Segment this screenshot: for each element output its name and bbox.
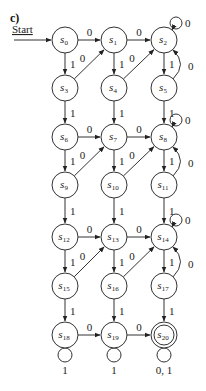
edge-s2-s5: 1 — [164, 53, 175, 74]
edge-label: 0 — [87, 26, 93, 38]
edge-label: 1 — [70, 107, 76, 119]
edge-s7-s8: 0 — [127, 123, 150, 137]
edge-s11-s14: 1 — [164, 198, 175, 223]
edge-label: 1 — [119, 256, 125, 268]
edge-s6-s7: 0 — [78, 123, 100, 137]
edge-s19-s19: 1 — [107, 348, 121, 376]
edge-s6-s9: 1 — [65, 150, 76, 171]
edge-label: 1 — [169, 58, 175, 70]
edge-s14-s17: 1 — [164, 250, 175, 272]
edge-label: 0 — [87, 321, 93, 333]
edge-label: 1 — [62, 364, 68, 376]
edge-label: 1 — [169, 305, 175, 317]
edge-label: 1 — [111, 364, 117, 376]
edge-s12-s15: 1 — [65, 250, 76, 272]
edge-label: 1 — [70, 58, 76, 70]
state-s3: s3 — [52, 75, 78, 101]
edge-label: 1 — [169, 155, 175, 167]
edge-label: 0 — [129, 149, 135, 161]
state-s0: s0 — [52, 27, 78, 53]
edge-s18-s19: 0 — [78, 321, 100, 335]
state-s19: s19 — [101, 322, 127, 348]
edge-s16-s14: 0 — [123, 247, 154, 277]
edge-s18-s18: 1 — [58, 348, 72, 376]
edge-s4-s7: 1 — [114, 101, 125, 123]
state-s7: s7 — [101, 124, 127, 150]
edge-label: 1 — [119, 107, 125, 119]
state-s14: s14 — [151, 224, 177, 250]
state-diagram: c) Start 0011100001110011100001110011100… — [0, 0, 206, 391]
state-s2: s2 — [151, 27, 177, 53]
edge-s5-s2: 0 — [173, 50, 194, 79]
state-s10: s10 — [101, 172, 127, 198]
edge-label: 0 — [185, 17, 191, 29]
edge-label: 0 — [136, 223, 142, 235]
edge-label: 1 — [119, 58, 125, 70]
edge-label: 0 — [136, 26, 142, 38]
edge-s0-s3: 1 — [65, 53, 76, 74]
edge-label: 0, 1 — [156, 364, 173, 376]
state-s8: s8 — [151, 124, 177, 150]
edge-label: 0 — [80, 52, 86, 64]
edge-s12-s13: 0 — [78, 223, 100, 237]
edge-label: 1 — [119, 305, 125, 317]
state-s6: s6 — [52, 124, 78, 150]
edge-label: 1 — [70, 155, 76, 167]
edge-label: 0 — [80, 250, 86, 262]
edge-s3-s6: 1 — [65, 101, 76, 123]
edge-s15-s18: 1 — [65, 299, 76, 321]
state-s16: s16 — [101, 273, 127, 299]
edges-layer: 0011100001110011100001110011100001110011… — [58, 17, 194, 376]
edge-label: 0 — [129, 250, 135, 262]
edge-label: 1 — [169, 107, 175, 119]
edge-label: 0 — [80, 149, 86, 161]
start-label: Start — [12, 23, 33, 35]
edge-s17-s14: 0 — [173, 247, 194, 277]
edge-s10-s8: 0 — [123, 147, 154, 176]
edge-label: 0 — [136, 123, 142, 135]
edge-label: 0 — [87, 123, 93, 135]
state-s4: s4 — [101, 75, 127, 101]
edge-label: 1 — [119, 155, 125, 167]
edge-s1-s2: 0 — [127, 26, 150, 40]
edge-label: 1 — [70, 305, 76, 317]
edge-label: 0 — [185, 214, 191, 226]
edge-label: 0 — [188, 258, 194, 270]
edge-label: 0 — [136, 321, 142, 333]
edge-s2-s2: 0 — [170, 17, 191, 30]
edge-s17-s20: 1 — [164, 299, 175, 321]
edge-label: 1 — [119, 205, 125, 217]
edge-s1-s4: 1 — [114, 53, 125, 74]
edge-label: 0 — [185, 114, 191, 126]
edge-s0-s1: 0 — [78, 26, 100, 40]
edge-s16-s19: 1 — [114, 299, 125, 321]
edge-s4-s2: 0 — [123, 50, 154, 79]
edge-s10-s13: 1 — [114, 198, 125, 223]
state-s20: s20 — [151, 322, 177, 348]
edge-s5-s8: 1 — [164, 101, 175, 123]
edge-label: 1 — [70, 205, 76, 217]
edge-s3-s1: 0 — [74, 50, 104, 79]
edge-label: 0 — [129, 52, 135, 64]
edge-label: 0 — [87, 223, 93, 235]
edge-label: 0 — [188, 157, 194, 169]
state-s5: s5 — [151, 75, 177, 101]
edge-label: 1 — [169, 256, 175, 268]
state-s15: s15 — [52, 273, 78, 299]
state-s13: s13 — [101, 224, 127, 250]
edge-s15-s13: 0 — [74, 247, 104, 277]
edge-s13-s16: 1 — [114, 250, 125, 272]
state-s1: s1 — [101, 27, 127, 53]
state-s18: s18 — [52, 322, 78, 348]
edge-s9-s7: 0 — [74, 147, 104, 176]
state-s12: s12 — [52, 224, 78, 250]
edge-label: 0 — [188, 60, 194, 72]
edge-s13-s14: 0 — [127, 223, 150, 237]
edge-s8-s11: 1 — [164, 150, 175, 171]
edge-s19-s20: 0 — [127, 321, 150, 335]
state-s11: s11 — [151, 172, 177, 198]
edge-s20-s20: 0, 1 — [156, 348, 173, 376]
state-s9: s9 — [52, 172, 78, 198]
edge-s11-s8: 0 — [173, 147, 194, 176]
edge-s7-s10: 1 — [114, 150, 125, 171]
